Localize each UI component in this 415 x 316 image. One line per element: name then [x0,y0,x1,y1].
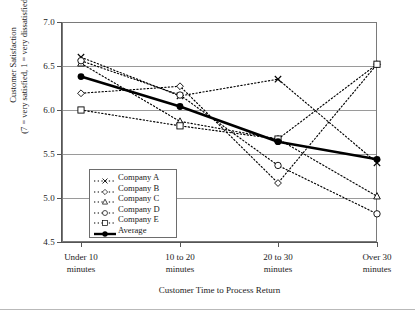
legend-key-square-icon [93,214,117,224]
x-tick-label-line: 10 to 20 [137,252,223,264]
y-axis-title-line2: (7 = very satisfied, 1 = very dissatisfi… [19,0,30,150]
x-tick-mark [81,242,82,247]
gridline [63,66,376,67]
y-tick-mark [57,110,62,111]
x-tick-mark [377,242,378,247]
legend-item-company-e[interactable]: Company E [93,214,173,225]
legend-label: Company C [117,193,159,203]
x-tick-label: Under 10minutes [38,252,124,275]
legend-label: Company D [117,204,160,214]
legend-item-company-c[interactable]: Company C [93,193,173,204]
y-axis-line [61,22,62,242]
x-tick-label: Over 30minutes [334,252,415,275]
x-tick-label: 20 to 30minutes [235,252,321,275]
gridline [63,154,376,155]
marker-filled-circle [102,231,107,236]
legend-key-circle-icon [93,204,117,214]
legend-item-company-d[interactable]: Company D [93,204,173,215]
x-tick-label-line: minutes [235,264,321,276]
legend-item-company-b[interactable]: Company B [93,183,173,194]
y-axis-title-line1: Customer Satisfaction [8,0,19,150]
y-tick-label: 5.5 [29,150,55,159]
legend-key-filled-circle-icon [93,225,117,235]
footer-rule [0,309,415,310]
legend-key-x-icon [93,172,117,182]
legend-label: Company B [117,183,159,193]
x-tick-label-line: Under 10 [38,252,124,264]
y-tick-mark [57,22,62,23]
y-tick-mark [57,198,62,199]
x-tick-label: 10 to 20minutes [137,252,223,275]
legend-label: Average [117,225,146,235]
y-tick-mark [57,66,62,67]
legend-key-triangle-icon [93,193,117,203]
x-tick-mark [180,242,181,247]
y-tick-mark [57,154,62,155]
legend-label: Company E [117,214,159,224]
y-tick-label: 5.0 [29,194,55,203]
gridline [63,110,376,111]
x-tick-label-line: Over 30 [334,252,415,264]
legend-key-diamond-icon [93,183,117,193]
x-tick-label-line: minutes [334,264,415,276]
x-axis-line [62,242,377,243]
legend-item-average[interactable]: Average [93,225,173,236]
y-tick-label: 4.5 [29,238,55,247]
chart-figure: 7.06.56.05.55.04.5 Customer Satisfaction… [0,0,415,316]
x-tick-mark [278,242,279,247]
x-tick-label-line: 20 to 30 [235,252,321,264]
x-axis-title: Customer Time to Process Return [62,285,377,295]
y-axis-title: Customer Satisfaction (7 = very satisfie… [8,0,34,150]
legend-item-company-a[interactable]: Company A [93,172,173,183]
legend-label: Company A [117,172,159,182]
x-tick-label-line: minutes [38,264,124,276]
x-tick-label-line: minutes [137,264,223,276]
chart-legend: Company ACompany BCompany CCompany DComp… [89,169,177,238]
